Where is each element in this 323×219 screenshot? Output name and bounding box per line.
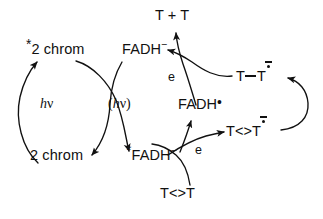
planck-constant-h: h bbox=[40, 96, 47, 111]
label-electron-forward-transfer: e bbox=[195, 144, 202, 157]
negative-charge-superscript: − bbox=[161, 39, 167, 50]
bonded-thymine-right: T bbox=[257, 68, 266, 84]
planck-constant-h-transfer: h bbox=[113, 96, 120, 111]
negative-charge-superscript-excited: − bbox=[171, 145, 177, 156]
ground-chromophore-text: 2 chrom bbox=[30, 147, 83, 163]
label-thymine-bonded-radical-anion: TT bbox=[236, 66, 274, 83]
fadh-anion-text: FADH bbox=[122, 41, 161, 57]
electron-symbol-top: e bbox=[168, 70, 175, 84]
frequency-nu: ν bbox=[47, 96, 53, 111]
radical-anion-glyph-bonded bbox=[266, 66, 274, 81]
label-excited-chromophore: *2 chrom bbox=[26, 42, 85, 57]
radical-dot: • bbox=[217, 95, 222, 110]
label-ground-chromophore: 2 chrom bbox=[30, 148, 83, 163]
fadh-radical-text: FADH bbox=[178, 96, 217, 112]
label-thymine-dimer-substrate: T<>T bbox=[160, 186, 195, 201]
label-excited-fadh-anion: *FADH− bbox=[126, 148, 177, 163]
label-photon-absorption: hν bbox=[40, 97, 53, 111]
repaired-thymines-text: T + T bbox=[155, 7, 189, 23]
arrow-radical-to-fadh-radical bbox=[180, 121, 191, 152]
thymine-dimer-radical-anion-text: T<>T bbox=[226, 123, 261, 139]
arrow-bonded-radical-to-fadh-anion bbox=[168, 50, 232, 76]
excited-chromophore-text: 2 chrom bbox=[31, 41, 84, 57]
excited-state-asterisk: * bbox=[26, 37, 31, 52]
label-repaired-thymines: T + T bbox=[155, 8, 189, 23]
label-fadh-radical: FADH• bbox=[178, 97, 222, 112]
sigma-bond-dash bbox=[245, 75, 256, 77]
excited-fadh-anion-text: FADH bbox=[131, 147, 170, 163]
electron-symbol-bottom: e bbox=[195, 143, 202, 157]
label-fadh-anion: FADH− bbox=[122, 42, 167, 57]
arrow-dimer-radical-anion-to-bonded-radical bbox=[281, 78, 308, 130]
bonded-thymine-left: T bbox=[236, 68, 245, 84]
radical-anion-glyph-dimer bbox=[261, 121, 269, 136]
excited-state-asterisk-fadh: * bbox=[126, 143, 131, 158]
arrow-release-thymines bbox=[176, 33, 196, 105]
thymine-dimer-substrate-text: T<>T bbox=[160, 185, 195, 201]
paren-close: ) bbox=[126, 96, 131, 111]
photolyase-repair-diagram: *2 chrom 2 chrom hν (hν) FADH− *FADH− FA… bbox=[0, 0, 323, 219]
label-electron-back-transfer: e bbox=[168, 71, 175, 84]
label-energy-transfer-photon: (hν) bbox=[108, 97, 131, 111]
label-thymine-dimer-radical-anion: T<>T bbox=[226, 121, 269, 138]
